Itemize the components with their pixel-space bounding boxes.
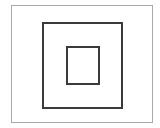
- diagram-canvas: [0, 0, 160, 128]
- inner-square-rectangle: [66, 46, 100, 85]
